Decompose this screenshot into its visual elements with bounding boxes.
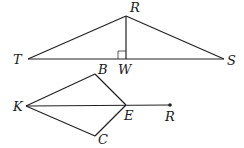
kite-kbec: K B E C R (12, 62, 175, 147)
label-r-top: R (129, 0, 140, 15)
label-w: W (118, 62, 133, 77)
label-b: B (97, 62, 108, 77)
right-angle-marker (118, 51, 126, 59)
point-r (168, 103, 172, 107)
segment-rs (126, 16, 224, 59)
segment-ker (26, 105, 170, 106)
segment-kb (26, 74, 95, 106)
label-s: S (227, 53, 236, 68)
label-k: K (12, 99, 24, 114)
segment-tr (28, 16, 126, 59)
geometry-diagram: R T W S K B E C R (0, 0, 244, 148)
label-r-bottom: R (164, 109, 175, 124)
label-c: C (98, 132, 108, 147)
label-t: T (13, 52, 23, 67)
triangle-rts: R T W S (13, 0, 236, 77)
segment-be (95, 74, 126, 105)
segment-ck (26, 106, 95, 136)
label-e: E (123, 108, 134, 123)
